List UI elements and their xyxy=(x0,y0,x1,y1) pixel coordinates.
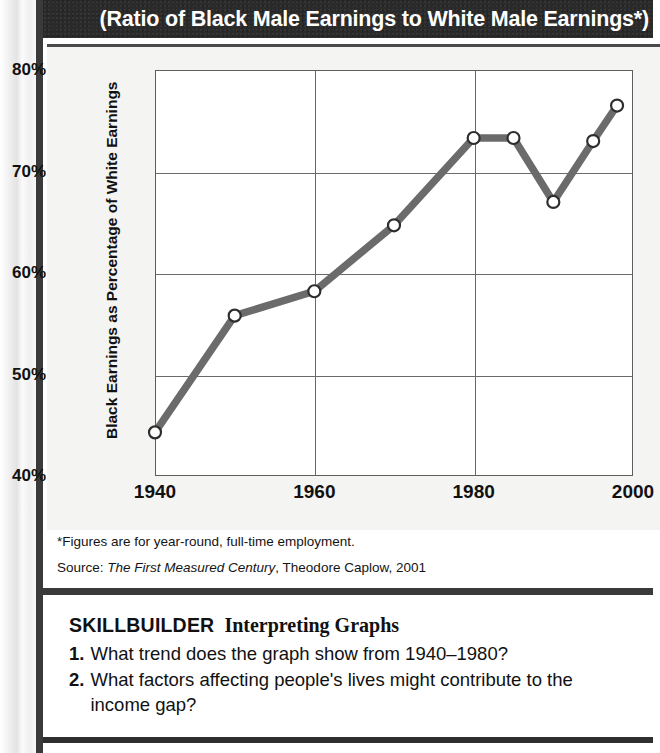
source-rest: , Theodore Caplow, 2001 xyxy=(275,560,426,575)
data-point-marker xyxy=(508,132,520,144)
skillbuilder-label: SKILLBUILDER xyxy=(69,614,214,636)
y-tick-label: 60% xyxy=(0,263,46,283)
series-markers xyxy=(149,100,623,439)
chart-panel: Black Earnings as Percentage of White Ea… xyxy=(47,44,660,530)
skillbuilder-question-list: 1.What trend does the graph show from 19… xyxy=(47,642,656,717)
data-point-marker xyxy=(547,196,559,208)
y-tick-label: 50% xyxy=(0,365,46,385)
question-number: 2. xyxy=(69,668,84,717)
series-line xyxy=(155,106,617,433)
data-point-marker xyxy=(611,100,623,112)
x-tick-label: 1960 xyxy=(293,481,335,503)
data-point-marker xyxy=(308,285,320,297)
skillbuilder-question: 2.What factors affecting people's lives … xyxy=(69,668,656,717)
skillbuilder-heading: SKILLBUILDERInterpreting Graphs xyxy=(69,614,656,637)
data-series xyxy=(155,70,633,476)
x-tick-label: 1980 xyxy=(453,481,495,503)
figure-bottom-rule xyxy=(43,737,653,743)
skillbuilder-box: SKILLBUILDERInterpreting Graphs 1.What t… xyxy=(47,600,656,737)
data-point-marker xyxy=(388,219,400,231)
section-divider xyxy=(43,588,653,595)
data-point-marker xyxy=(149,426,161,438)
skillbuilder-question: 1.What trend does the graph show from 19… xyxy=(69,642,656,666)
source-line: Source: The First Measured Century, Theo… xyxy=(57,560,647,577)
figure-notes: *Figures are for year-round, full-time e… xyxy=(57,534,647,586)
figure-container: (Ratio of Black Male Earnings to White M… xyxy=(36,0,653,753)
chart-title: (Ratio of Black Male Earnings to White M… xyxy=(100,7,649,32)
data-point-marker xyxy=(468,132,480,144)
footnote: *Figures are for year-round, full-time e… xyxy=(57,534,647,551)
source-title: The First Measured Century xyxy=(107,560,275,575)
data-point-marker xyxy=(587,135,599,147)
y-tick-label: 70% xyxy=(0,162,46,182)
y-axis-title: Black Earnings as Percentage of White Ea… xyxy=(103,109,121,439)
figure-header-bar: (Ratio of Black Male Earnings to White M… xyxy=(43,0,653,38)
y-tick-label: 80% xyxy=(0,60,46,80)
skillbuilder-subtitle: Interpreting Graphs xyxy=(224,614,399,636)
question-text: What trend does the graph show from 1940… xyxy=(90,642,508,666)
data-point-marker xyxy=(229,310,241,322)
x-tick-label: 2000 xyxy=(612,481,654,503)
source-prefix: Source: xyxy=(57,560,107,575)
x-tick-label: 1940 xyxy=(134,481,176,503)
question-text: What factors affecting people's lives mi… xyxy=(90,668,630,717)
y-tick-label: 40% xyxy=(0,466,46,486)
question-number: 1. xyxy=(69,642,84,666)
